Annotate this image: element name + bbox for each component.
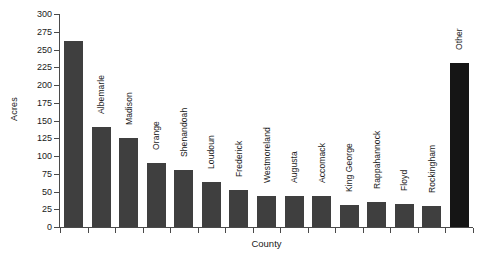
bar-group[interactable]: Augusta	[285, 14, 304, 227]
bar-category-label: Floyd	[400, 170, 409, 191]
bar[interactable]	[229, 190, 248, 227]
y-axis-tick-mark	[54, 209, 59, 210]
bar[interactable]	[422, 206, 441, 227]
x-axis-tick-mark	[335, 228, 336, 233]
y-axis-tick-label: 225	[22, 63, 52, 72]
bar[interactable]	[64, 41, 83, 227]
y-axis-tick-label: 150	[22, 116, 52, 125]
bar-category-label: Augusta	[290, 152, 299, 184]
bar[interactable]	[367, 202, 386, 227]
bar[interactable]	[202, 182, 221, 227]
x-axis-tick-mark	[60, 228, 61, 233]
bar-group[interactable]: Madison	[119, 14, 138, 227]
bar[interactable]	[257, 196, 276, 227]
x-axis-tick-mark	[88, 228, 89, 233]
bar[interactable]	[395, 204, 414, 227]
bar-group[interactable]: Fauquier	[64, 14, 83, 227]
y-axis-tick-label: 100	[22, 152, 52, 161]
y-axis-tick-mark	[54, 156, 59, 157]
bar[interactable]	[92, 127, 111, 227]
x-axis-label: County	[60, 238, 473, 249]
bar[interactable]	[340, 205, 359, 227]
bar-category-label: Accomack	[317, 143, 326, 183]
bar-group[interactable]: Frederick	[229, 14, 248, 227]
y-axis-tick-mark	[54, 192, 59, 193]
y-axis-tick-mark	[54, 138, 59, 139]
x-axis-tick-mark	[363, 228, 364, 233]
bar-category-label: Frederick	[234, 141, 243, 177]
x-axis-tick-mark	[143, 228, 144, 233]
y-axis-tick-label: 25	[22, 205, 52, 214]
y-axis-tick-mark	[54, 174, 59, 175]
bar-group[interactable]: Albemarle	[92, 14, 111, 227]
y-axis-tick-mark	[54, 67, 59, 68]
bar-group[interactable]: Rockingham	[422, 14, 441, 227]
bar-group[interactable]: Floyd	[395, 14, 414, 227]
y-axis-tick-labels: 3002752502252001751501251007550250	[22, 0, 52, 259]
x-axis-tick-mark	[170, 228, 171, 233]
bar-category-label: Albemarle	[97, 75, 106, 114]
bar[interactable]	[285, 196, 304, 227]
x-axis-tick-mark	[390, 228, 391, 233]
x-axis-tick-mark	[198, 228, 199, 233]
y-axis-tick-mark	[54, 32, 59, 33]
bar-group[interactable]: Other	[450, 14, 469, 227]
bar-category-label: Other	[455, 28, 464, 50]
bar-group[interactable]: Rappahannock	[367, 14, 386, 227]
bar[interactable]	[312, 196, 331, 227]
bar[interactable]	[174, 170, 193, 227]
bar-category-label: Westmoreland	[262, 127, 271, 183]
bar-category-label: King George	[345, 143, 354, 192]
y-axis-tick-mark	[54, 103, 59, 104]
y-axis-tick-mark	[54, 121, 59, 122]
y-axis-tick-label: 250	[22, 45, 52, 54]
bar-category-label: Fauquier	[69, 1, 78, 38]
y-axis-tick-label: 300	[22, 10, 52, 19]
x-axis-tick-mark	[280, 228, 281, 233]
bar-category-label: Loudoun	[207, 135, 216, 169]
bar-group[interactable]: Accomack	[312, 14, 331, 227]
bar-category-label: Madison	[124, 92, 133, 125]
x-axis-tick-mark	[253, 228, 254, 233]
x-axis-tick-mark	[473, 228, 474, 233]
bar-group[interactable]: Loudoun	[202, 14, 221, 227]
y-axis-tick-label: 0	[22, 223, 52, 232]
bar-group[interactable]: Shenandoah	[174, 14, 193, 227]
bar-category-label: Rappahannock	[372, 131, 381, 189]
y-axis-tick-mark	[54, 50, 59, 51]
bar-group[interactable]: Orange	[147, 14, 166, 227]
bar-category-label: Rockingham	[427, 144, 436, 192]
plot-area: FauquierAlbemarleMadisonOrangeShenandoah…	[60, 14, 473, 227]
x-axis-tick-mark	[225, 228, 226, 233]
bar-group[interactable]: Westmoreland	[257, 14, 276, 227]
y-axis-tick-mark	[54, 14, 59, 15]
y-axis-tick-mark	[54, 85, 59, 86]
y-axis-tick-mark	[54, 227, 59, 228]
y-axis-tick-label: 125	[22, 134, 52, 143]
bar-category-label: Orange	[152, 121, 161, 150]
bar[interactable]	[147, 163, 166, 227]
y-axis-tick-label: 75	[22, 169, 52, 178]
y-axis-tick-label: 200	[22, 81, 52, 90]
x-axis-tick-mark	[115, 228, 116, 233]
y-axis-label: Acres	[9, 79, 19, 139]
bar-category-label: Shenandoah	[179, 108, 188, 157]
bar-chart: Acres 3002752502252001751501251007550250…	[0, 0, 477, 259]
y-axis-tick-label: 175	[22, 98, 52, 107]
y-axis-tick-label: 275	[22, 27, 52, 36]
x-axis-tick-mark	[418, 228, 419, 233]
x-axis-tick-mark	[308, 228, 309, 233]
bar-group[interactable]: King George	[340, 14, 359, 227]
x-axis-tick-mark	[445, 228, 446, 233]
y-axis-tick-label: 50	[22, 187, 52, 196]
x-axis-tick-marks	[60, 228, 473, 234]
bar[interactable]	[119, 138, 138, 227]
bar[interactable]	[450, 63, 469, 227]
